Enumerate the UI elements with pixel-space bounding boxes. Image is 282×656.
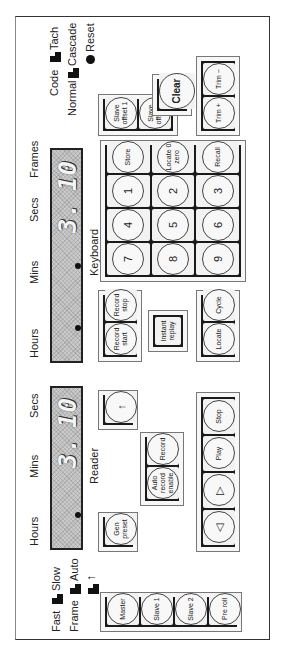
key-8[interactable]: 8 <box>152 243 195 275</box>
rewind-button[interactable]: ◁ <box>203 510 235 545</box>
keyboard-label: Keyboard <box>88 229 100 276</box>
tape-sync-control-panel: Hours Mins Secs 3. 10 Reader Fast Slow F… <box>0 0 282 656</box>
reader-hours-separator-dot <box>75 512 81 518</box>
keyboard-secs-digits: 3. <box>55 202 81 233</box>
clear-button[interactable]: Clear <box>159 73 195 109</box>
recall-button[interactable]: Recall <box>196 141 239 173</box>
code-label: Code <box>48 70 60 96</box>
trim-minus-button[interactable]: Trim − <box>203 63 235 95</box>
keyboard-frames-label: Frames <box>28 141 40 178</box>
reader-hours-label: Hours <box>28 517 40 546</box>
tach-label: Tach <box>48 27 60 50</box>
arrow-group: ↑ <box>98 390 138 430</box>
keyboard-hours-separator-dot <box>75 325 81 331</box>
frame-label: Frame <box>68 600 80 632</box>
gen-preset-group: Gen preset <box>98 512 138 552</box>
key-3[interactable]: 3 <box>196 175 239 207</box>
reset-label: Reset <box>84 23 96 52</box>
numeric-keypad: 7 4 1 Store 8 5 2 Locate 0 zero 9 6 3 Re… <box>100 140 246 282</box>
slow-label: Slow <box>50 567 62 591</box>
cycle-button[interactable]: Cycle <box>203 289 235 321</box>
instant-replay-button[interactable]: Instant replay <box>155 317 181 345</box>
record-start-stop-group: Record start Record stop <box>98 290 142 362</box>
locate-zero-button[interactable]: Locate 0 zero <box>152 141 195 173</box>
key-2[interactable]: 2 <box>152 175 195 207</box>
direction-switch[interactable] <box>88 584 99 594</box>
reader-secs-digits: 10 <box>55 397 81 428</box>
gen-preset-button[interactable]: Gen preset <box>105 513 137 545</box>
keyboard-display: 3. 10 <box>50 148 83 363</box>
keyboard-frames-digits: 10 <box>55 160 81 191</box>
record-start-button[interactable]: Record start <box>105 323 137 355</box>
stop-button[interactable]: Stop <box>203 399 235 434</box>
trim-plus-button[interactable]: Trim + <box>203 97 235 129</box>
keyboard-hours-label: Hours <box>28 329 40 358</box>
key-6[interactable]: 6 <box>196 209 239 241</box>
arrow-up-button[interactable]: ↑ <box>105 391 137 423</box>
fast-label: Fast <box>50 611 62 632</box>
transport-group: ◁ ▷ Play Stop <box>196 392 240 552</box>
reader-mins-digits: 3. <box>55 437 81 468</box>
slave-offset-1-button[interactable]: Slave offset 1 <box>105 97 137 129</box>
slave-2-button[interactable]: Slave 2 <box>175 593 207 625</box>
reader-secs-label: Secs <box>28 394 40 418</box>
code-tach-switch[interactable] <box>50 52 61 62</box>
reset-button[interactable] <box>86 55 95 64</box>
keyboard-mins-separator-dot <box>75 263 81 269</box>
auto-label: Auto <box>68 558 80 581</box>
master-slave-group: Master Slave 1 Slave 2 Pre roll <box>100 592 242 632</box>
locate-button[interactable]: Locate <box>203 323 235 355</box>
keyboard-mins-label: Mins <box>28 261 40 284</box>
pre-roll-button[interactable]: Pre roll <box>209 593 241 625</box>
auto-record-enable-button[interactable]: Auto record enable <box>147 467 179 499</box>
key-1[interactable]: 1 <box>107 175 150 207</box>
keyboard-secs-label: Secs <box>28 198 40 222</box>
cascade-label: Cascade <box>66 23 78 66</box>
reader-mins-label: Mins <box>28 455 40 478</box>
trim-group: Trim + Trim − <box>196 56 240 136</box>
store-button[interactable]: Store <box>107 141 150 173</box>
key-4[interactable]: 4 <box>107 209 150 241</box>
key-7[interactable]: 7 <box>107 243 150 275</box>
fast-forward-button[interactable]: ▷ <box>203 473 235 508</box>
master-button[interactable]: Master <box>107 593 139 625</box>
instant-replay-group: Instant replay <box>148 310 188 352</box>
key-5[interactable]: 5 <box>152 209 195 241</box>
direction-arrow-label: ↑ <box>84 575 98 581</box>
play-button[interactable]: Play <box>203 436 235 471</box>
key-9[interactable]: 9 <box>196 243 239 275</box>
slave-1-button[interactable]: Slave 1 <box>141 593 173 625</box>
record-group: Auto record enable Record <box>140 432 184 506</box>
frame-auto-switch[interactable] <box>70 584 81 594</box>
reader-display: 3. 10 <box>50 386 83 550</box>
reader-label: Reader <box>88 448 100 484</box>
record-button[interactable]: Record <box>147 433 179 465</box>
locate-cycle-group: Locate Cycle <box>196 290 240 362</box>
record-stop-button[interactable]: Record stop <box>105 289 137 321</box>
clear-group: Clear <box>152 74 192 116</box>
normal-label: Normal <box>66 81 78 116</box>
normal-cascade-switch[interactable] <box>68 68 79 78</box>
fast-slow-switch[interactable] <box>52 594 63 604</box>
